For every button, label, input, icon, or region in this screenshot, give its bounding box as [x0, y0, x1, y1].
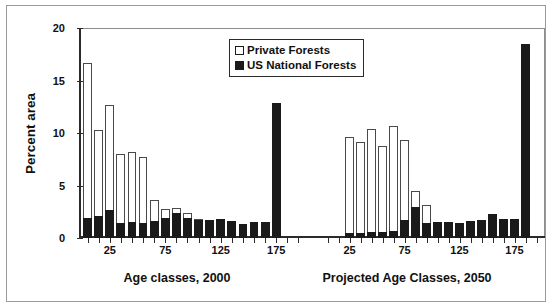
- bar: [272, 103, 281, 238]
- bar: [411, 191, 420, 238]
- bar: [521, 44, 530, 238]
- legend-item-private-forests: Private Forests: [235, 43, 356, 57]
- x-tick-mark: [383, 238, 384, 243]
- chart-screenshot: Percent area 05101520 257512517525751251…: [0, 0, 552, 308]
- bar-segment-us-national-forests: [183, 218, 192, 238]
- bar: [239, 224, 248, 238]
- x-tick-mark: [405, 238, 406, 243]
- bar-segment-us-national-forests: [150, 221, 159, 238]
- x-tick-mark: [416, 238, 417, 243]
- bar-segment-private-forests: [389, 126, 398, 238]
- x-tick-mark: [243, 238, 244, 243]
- bar-segment-us-national-forests: [422, 223, 431, 238]
- bar-segment-us-national-forests: [261, 222, 270, 238]
- y-tick-label-0: 0: [59, 232, 65, 244]
- x-tick-label-175: 175: [505, 244, 523, 256]
- bar: [94, 130, 103, 238]
- bar: [444, 222, 453, 238]
- x-tick-mark: [99, 238, 100, 243]
- x-tick-mark: [176, 238, 177, 243]
- x-tick-mark: [515, 238, 516, 243]
- bar-segment-us-national-forests: [205, 220, 214, 238]
- x-tick-label-25: 25: [343, 244, 355, 256]
- plot-right-border: [544, 28, 545, 238]
- x-tick-mark: [199, 238, 200, 243]
- bar-segment-us-national-forests: [455, 223, 464, 238]
- bar-segment-us-national-forests: [411, 207, 420, 239]
- bar-segment-us-national-forests: [477, 220, 486, 238]
- bar-segment-private-forests: [83, 63, 92, 238]
- bar: [83, 63, 92, 238]
- bar-segment-us-national-forests: [94, 216, 103, 238]
- x-tick-mark: [254, 238, 255, 243]
- y-tick-label-5: 5: [59, 180, 65, 192]
- bar-segment-us-national-forests: [510, 219, 519, 238]
- x-tick-mark: [276, 238, 277, 243]
- x-tick-mark: [449, 238, 450, 243]
- y-tick-mark-20: [77, 28, 83, 29]
- bar-segment-us-national-forests: [400, 220, 409, 238]
- legend-label-us-national-forests: US National Forests: [247, 59, 356, 71]
- x-tick-mark: [328, 238, 329, 243]
- filled-square-icon: [235, 61, 244, 70]
- bar-segment-us-national-forests: [83, 218, 92, 238]
- chart-legend: Private Forests US National Forests: [229, 39, 364, 77]
- bar: [161, 209, 170, 238]
- bar-segment-us-national-forests: [139, 223, 148, 238]
- x-tick-mark: [298, 238, 299, 243]
- plot-top-border: [79, 28, 545, 29]
- bar-segment-us-national-forests: [444, 222, 453, 238]
- x-tick-mark: [482, 238, 483, 243]
- bar: [250, 222, 259, 238]
- x-tick-mark: [143, 238, 144, 243]
- bar: [128, 152, 137, 238]
- x-tick-mark: [460, 238, 461, 243]
- bar: [378, 146, 387, 238]
- x-tick-label-175: 175: [267, 244, 285, 256]
- bar-segment-private-forests: [345, 137, 354, 238]
- x-tick-mark: [287, 238, 288, 243]
- x-tick-mark: [88, 238, 89, 243]
- bar-segment-us-national-forests: [499, 219, 508, 238]
- x-axis-tick-labels: 25751251752575125175: [79, 244, 545, 260]
- bar: [477, 220, 486, 238]
- bar-segment-us-national-forests: [227, 221, 236, 238]
- bar-segment-us-national-forests: [172, 213, 181, 238]
- bar: [116, 154, 125, 238]
- bar-segment-us-national-forests: [194, 220, 203, 238]
- y-tick-mark-5: [77, 186, 83, 187]
- x-tick-mark: [427, 238, 428, 243]
- x-tick-label-125: 125: [450, 244, 468, 256]
- x-tick-mark: [471, 238, 472, 243]
- bar: [356, 142, 365, 238]
- y-axis-tick-labels: 05101520: [7, 28, 73, 238]
- y-tick-label-20: 20: [53, 22, 65, 34]
- x-tick-mark: [154, 238, 155, 243]
- x-tick-mark: [132, 238, 133, 243]
- x-tick-mark: [350, 238, 351, 243]
- x-tick-mark: [232, 238, 233, 243]
- x-tick-mark: [210, 238, 211, 243]
- bar-segment-us-national-forests: [250, 222, 259, 238]
- legend-label-private-forests: Private Forests: [247, 44, 330, 56]
- bar: [172, 208, 181, 238]
- bar: [139, 157, 148, 238]
- x-tick-mark: [165, 238, 166, 243]
- x-tick-label-125: 125: [212, 244, 230, 256]
- bar: [367, 129, 376, 238]
- bar-segment-us-national-forests: [272, 103, 281, 238]
- bar: [433, 222, 442, 238]
- x-tick-mark: [438, 238, 439, 243]
- x-tick-mark: [339, 238, 340, 243]
- chart-frame: Percent area 05101520 257512517525751251…: [6, 5, 546, 302]
- x-tick-mark: [221, 238, 222, 243]
- bar: [194, 219, 203, 238]
- x-tick-label-75: 75: [398, 244, 410, 256]
- x-tick-mark: [361, 238, 362, 243]
- bar-segment-us-national-forests: [216, 219, 225, 238]
- x-tick-mark: [504, 238, 505, 243]
- bar-segment-us-national-forests: [466, 221, 475, 238]
- x-tick-mark: [121, 238, 122, 243]
- bar-segment-private-forests: [367, 129, 376, 238]
- x-tick-label-75: 75: [159, 244, 171, 256]
